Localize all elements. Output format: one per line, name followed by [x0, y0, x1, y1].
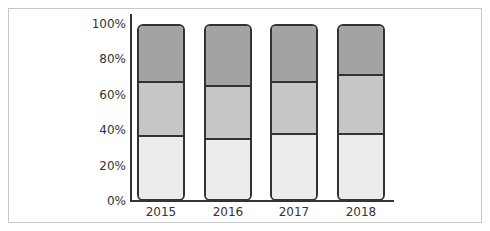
bar-2017 [270, 24, 318, 201]
y-tick: 20% [66, 159, 126, 173]
x-label: 2017 [270, 205, 318, 219]
bar-2016 [204, 24, 252, 201]
bar-2018 [337, 24, 385, 201]
bar-segment-top [206, 26, 250, 85]
bar-segment-low [339, 133, 383, 199]
bar-segment-top [139, 26, 183, 81]
y-tick: 40% [66, 123, 126, 137]
bar-segment-mid [139, 81, 183, 135]
y-tick: 60% [66, 88, 126, 102]
bar-segment-top [272, 26, 316, 81]
x-label: 2018 [337, 205, 385, 219]
x-label: 2015 [137, 205, 185, 219]
bar-segment-mid [272, 81, 316, 133]
bar-segment-mid [206, 85, 250, 139]
y-tick: 80% [66, 52, 126, 66]
y-axis [130, 14, 132, 202]
y-tick: 0% [66, 194, 126, 208]
bar-segment-low [206, 138, 250, 199]
x-label: 2016 [204, 205, 252, 219]
y-tick: 100% [66, 17, 126, 31]
bar-segment-low [272, 133, 316, 199]
bar-2015 [137, 24, 185, 201]
bar-segment-top [339, 26, 383, 74]
bar-segment-low [139, 135, 183, 199]
bar-segment-mid [339, 74, 383, 133]
